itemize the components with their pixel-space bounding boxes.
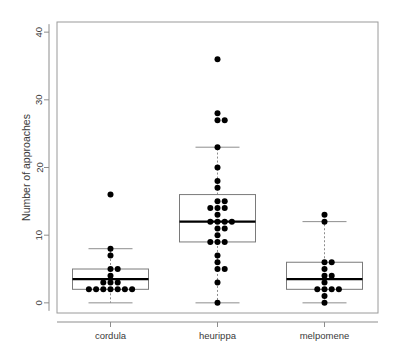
data-point	[115, 266, 121, 272]
data-point	[322, 300, 328, 306]
data-point	[322, 259, 328, 265]
data-point	[100, 286, 106, 292]
data-point	[122, 286, 128, 292]
y-axis-title: Number of approaches	[20, 114, 32, 221]
data-point	[322, 293, 328, 299]
data-point	[215, 178, 221, 184]
y-tick-label: 30	[34, 95, 45, 106]
data-point	[329, 273, 335, 279]
data-point	[115, 280, 121, 286]
data-point	[115, 286, 121, 292]
data-point	[322, 212, 328, 218]
data-point	[314, 286, 320, 292]
data-point	[86, 286, 92, 292]
data-point	[222, 205, 228, 211]
data-point	[215, 239, 221, 245]
data-point	[336, 286, 342, 292]
data-point	[329, 286, 335, 292]
data-point	[222, 198, 228, 204]
data-point	[322, 273, 328, 279]
data-point	[215, 205, 221, 211]
data-point	[215, 117, 221, 123]
data-point	[215, 259, 221, 265]
y-tick-label: 10	[34, 230, 45, 241]
x-tick-label-cordula: cordula	[95, 330, 127, 341]
data-point	[322, 266, 328, 272]
points-group-melpomene	[314, 212, 342, 306]
data-point	[222, 225, 228, 231]
x-tick-label-melpomene: melpomene	[300, 330, 350, 341]
data-point	[215, 252, 221, 258]
data-point	[108, 266, 114, 272]
data-point	[108, 280, 114, 286]
data-point	[215, 280, 221, 286]
chart-root: 010203040Number of approachescordulaheur…	[0, 0, 397, 353]
data-point	[222, 219, 228, 225]
data-point	[93, 286, 99, 292]
data-point	[108, 273, 114, 279]
data-point	[100, 280, 106, 286]
data-point	[215, 266, 221, 272]
data-point	[108, 286, 114, 292]
data-point	[329, 259, 335, 265]
data-point	[108, 246, 114, 252]
data-point	[222, 239, 228, 245]
data-point	[215, 144, 221, 150]
data-point	[215, 232, 221, 238]
data-point	[215, 56, 221, 62]
data-point	[207, 239, 213, 245]
data-point	[215, 110, 221, 116]
boxplot-figure: 010203040Number of approachescordulaheur…	[0, 0, 397, 353]
data-point	[207, 205, 213, 211]
boxplot-group-heurippa	[180, 147, 256, 303]
data-point	[108, 192, 114, 198]
data-point	[215, 219, 221, 225]
points-group-heurippa	[207, 56, 235, 306]
data-point	[207, 219, 213, 225]
y-tick-label: 20	[34, 162, 45, 173]
data-point	[215, 185, 221, 191]
data-point	[322, 286, 328, 292]
data-point	[215, 225, 221, 231]
data-point	[222, 266, 228, 272]
data-point	[129, 286, 135, 292]
data-point	[322, 280, 328, 286]
data-point	[215, 165, 221, 171]
data-point	[215, 212, 221, 218]
data-point	[215, 300, 221, 306]
y-tick-label: 40	[34, 27, 45, 38]
data-point	[222, 117, 228, 123]
data-point	[229, 219, 235, 225]
data-point	[108, 252, 114, 258]
data-point	[215, 198, 221, 204]
y-tick-label: 0	[34, 300, 45, 305]
x-tick-label-heurippa: heurippa	[199, 330, 237, 341]
data-point	[322, 219, 328, 225]
